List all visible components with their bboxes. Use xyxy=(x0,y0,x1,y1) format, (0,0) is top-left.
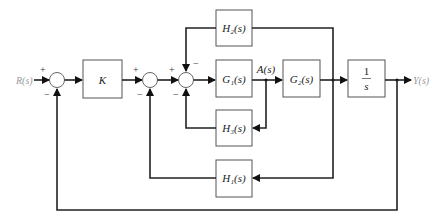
s2-plus-sign: + xyxy=(133,64,139,75)
h1-label: H₁(s) xyxy=(221,172,246,185)
s3-plus-sign: + xyxy=(169,64,175,75)
g2-label: G₂(s) xyxy=(290,73,314,86)
block-diagram: R(s) + − K + − + − − G₁(s) A(s) G₂(s) 1 … xyxy=(0,0,445,219)
g1-label: G₁(s) xyxy=(222,73,246,86)
a-signal-label: A(s) xyxy=(256,63,276,76)
s1-plus-sign: + xyxy=(40,64,46,75)
h1-feedback-line xyxy=(150,89,216,178)
input-signal-label: R(s) xyxy=(15,75,33,87)
s3-minus-sign-top: − xyxy=(193,58,199,69)
s3-minus-sign-bottom: − xyxy=(173,89,179,100)
h3-label: H₃(s) xyxy=(221,122,246,135)
summing-junction-1 xyxy=(50,73,65,88)
integrator-numerator: 1 xyxy=(364,65,370,77)
h2-feedback-line xyxy=(186,28,216,71)
s2-minus-sign: − xyxy=(137,89,143,100)
summing-junction-3 xyxy=(179,73,194,88)
output-signal-label: Y(s) xyxy=(413,75,430,87)
h3-feedback-line xyxy=(186,89,216,128)
h2-label: H₂(s) xyxy=(221,22,246,35)
s1-minus-sign: − xyxy=(44,89,50,100)
integrator-denominator: s xyxy=(364,80,368,92)
h3-input-line xyxy=(253,80,266,128)
summing-junction-2 xyxy=(143,73,158,88)
gain-k-label: K xyxy=(98,74,107,86)
